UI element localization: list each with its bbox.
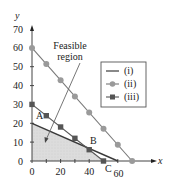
x-tick-label: 60 [114,168,124,179]
y-tick-label: 50 [13,61,23,72]
point-a-label: A [36,110,44,121]
feasible-region-label: region [57,51,83,62]
legend-label-ii: (ii) [124,78,136,90]
y-axis-arrow-icon [30,25,34,31]
legend-label-iii: (iii) [124,91,139,103]
x-axis-arrow-icon [151,159,157,163]
x-tick-label: 20 [56,166,66,177]
feasible-region-label: Feasible [53,40,87,51]
chart: 0 10 20 30 40 50 60 70 0 20 40 60 y x [0,0,172,185]
y-tick-label: 10 [13,137,23,148]
point-b-label: B [90,135,97,146]
legend-label-i: (i) [124,65,133,77]
y-axis-label: y [14,10,20,21]
x-axis-label: x [157,155,163,166]
x-tick-label: 0 [30,166,35,177]
y-tick-label: 20 [13,118,23,129]
y-tick-label: 30 [13,99,23,110]
y-tick-label: 0 [18,156,23,167]
x-tick-label: 40 [84,166,94,177]
y-tick-label: 60 [13,42,23,53]
y-tick-label: 40 [13,80,23,91]
legend: (i) (ii) (iii) [101,62,146,107]
point-c-label: C [105,163,112,174]
y-tick-label: 70 [13,24,23,35]
